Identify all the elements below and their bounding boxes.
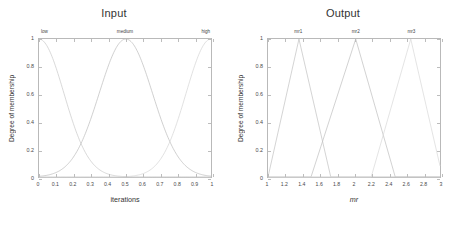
y-tick-mark — [268, 179, 271, 180]
y-tick-mark — [208, 95, 211, 96]
y-tick-mark — [39, 123, 42, 124]
y-tick-mark — [437, 67, 440, 68]
x-tick-mark — [143, 174, 144, 177]
x-tick-mark — [442, 39, 443, 42]
panel-output: Output Degree of membership mr1mr2mr3 11… — [229, 0, 457, 225]
plot-area-input — [38, 38, 212, 178]
curve-mr2 — [268, 39, 440, 177]
curve-high — [39, 39, 211, 177]
x-tick-mark — [126, 174, 127, 177]
y-tick-mark — [268, 95, 271, 96]
x-tick-mark — [109, 174, 110, 177]
x-tick-mark — [338, 39, 339, 42]
x-tick-label: 1.8 — [333, 181, 340, 187]
x-tick-label: 3 — [440, 181, 443, 187]
curve-mr3 — [268, 39, 440, 177]
x-tick-mark — [126, 39, 127, 42]
x-tick-mark — [196, 174, 197, 177]
curve-mr1 — [268, 39, 440, 177]
y-tick-label: 0.2 — [27, 147, 35, 153]
x-tick-mark — [56, 39, 57, 42]
x-tick-mark — [213, 174, 214, 177]
y-tick-label: 0.8 — [27, 63, 35, 69]
x-tick-mark — [425, 174, 426, 177]
x-tick-mark — [407, 174, 408, 177]
curves-output — [268, 39, 440, 177]
y-tick-mark — [437, 95, 440, 96]
y-tick-mark — [208, 123, 211, 124]
x-tick-label: 1.2 — [281, 181, 288, 187]
mf-label-mr2: mr2 — [352, 29, 360, 35]
y-tick-mark — [39, 95, 42, 96]
x-tick-label: 2.2 — [368, 181, 375, 187]
x-tick-label: 0.2 — [69, 181, 76, 187]
curve-medium — [39, 39, 211, 176]
x-tick-mark — [285, 39, 286, 42]
x-tick-mark — [74, 174, 75, 177]
y-tick-mark — [208, 67, 211, 68]
x-tick-mark — [285, 174, 286, 177]
y-tick-mark — [208, 151, 211, 152]
curves-input — [39, 39, 211, 177]
plot-area-output — [267, 38, 441, 178]
x-tick-mark — [196, 39, 197, 42]
x-tick-mark — [390, 39, 391, 42]
y-tick-label: 0 — [260, 175, 263, 181]
x-tick-mark — [338, 174, 339, 177]
mf-label-mr3: mr3 — [407, 29, 415, 35]
x-tick-label: 0.4 — [104, 181, 111, 187]
y-tick-label: 1 — [260, 35, 263, 41]
x-tick-label: 2.8 — [420, 181, 427, 187]
x-tick-label: 0.7 — [156, 181, 163, 187]
x-tick-mark — [91, 174, 92, 177]
y-tick-mark — [437, 123, 440, 124]
x-tick-label: 0.8 — [174, 181, 181, 187]
y-tick-mark — [268, 151, 271, 152]
y-tick-label: 1 — [31, 35, 34, 41]
x-tick-mark — [109, 39, 110, 42]
y-tick-mark — [437, 151, 440, 152]
x-tick-mark — [355, 39, 356, 42]
x-tick-mark — [268, 174, 269, 177]
x-tick-mark — [91, 39, 92, 42]
y-axis-label-input: Degree of membership — [7, 38, 17, 178]
panel-title-input: Input — [0, 7, 228, 20]
x-tick-mark — [303, 39, 304, 42]
y-axis-label-output: Degree of membership — [236, 38, 246, 178]
y-tick-mark — [268, 123, 271, 124]
x-tick-label: 1.4 — [298, 181, 305, 187]
y-tick-label: 0.6 — [27, 91, 35, 97]
x-tick-label: 0.5 — [121, 181, 128, 187]
y-tick-mark — [268, 39, 271, 40]
x-tick-mark — [74, 39, 75, 42]
y-tick-mark — [437, 179, 440, 180]
y-tick-mark — [39, 67, 42, 68]
y-tick-label: 0 — [31, 175, 34, 181]
y-tick-mark — [39, 179, 42, 180]
x-tick-mark — [320, 39, 321, 42]
y-tick-label: 0.2 — [256, 147, 264, 153]
x-tick-label: 0.9 — [191, 181, 198, 187]
x-tick-label: 1 — [211, 181, 214, 187]
x-tick-label: 0.6 — [139, 181, 146, 187]
x-tick-label: 0 — [37, 181, 40, 187]
x-tick-label: 0.1 — [52, 181, 59, 187]
x-tick-mark — [372, 174, 373, 177]
y-tick-mark — [268, 67, 271, 68]
x-tick-mark — [213, 39, 214, 42]
y-tick-mark — [208, 39, 211, 40]
x-tick-mark — [39, 174, 40, 177]
x-tick-label: 2.4 — [385, 181, 392, 187]
x-tick-label: 1.6 — [316, 181, 323, 187]
y-tick-mark — [208, 179, 211, 180]
panel-title-output: Output — [229, 7, 457, 20]
x-tick-mark — [56, 174, 57, 177]
x-axis-label-input: iterations — [38, 195, 212, 204]
y-tick-mark — [437, 39, 440, 40]
x-tick-label: 2.6 — [403, 181, 410, 187]
x-tick-mark — [161, 39, 162, 42]
mf-label-low: low — [41, 29, 48, 35]
x-tick-mark — [320, 174, 321, 177]
y-tick-mark — [39, 39, 42, 40]
panel-input: Input Degree of membership lowmediumhigh… — [0, 0, 228, 225]
